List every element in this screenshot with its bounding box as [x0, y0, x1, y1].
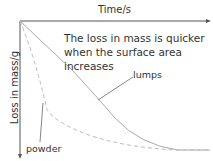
lumps-label: lumps — [133, 69, 162, 80]
powder-leader-line — [40, 103, 43, 142]
x-axis — [20, 19, 211, 23]
lumps-leader-line — [98, 77, 133, 100]
chart-canvas — [0, 0, 213, 161]
annotation-text: The loss in mass is quicker when the sur… — [64, 31, 213, 73]
x-axis-label: Time/s — [98, 4, 131, 15]
powder-label: powder — [26, 143, 61, 154]
y-axis-label: Loss in mass/g — [9, 45, 20, 131]
